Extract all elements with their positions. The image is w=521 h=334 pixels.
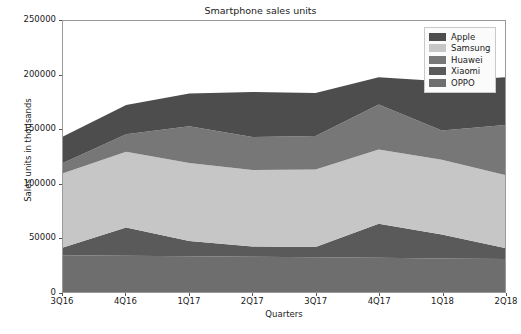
legend: AppleSamsungHuaweiXiaomiOPPO xyxy=(424,27,496,93)
y-tick-label: 50000 xyxy=(0,232,56,242)
area-series-oppo xyxy=(63,255,505,292)
x-tick-mark xyxy=(506,293,507,296)
x-tick-label: 2Q18 xyxy=(483,296,521,306)
legend-swatch-icon xyxy=(429,67,446,75)
legend-item-huawei[interactable]: Huawei xyxy=(429,54,490,66)
x-tick-label: 1Q18 xyxy=(420,296,466,306)
x-tick-mark xyxy=(443,293,444,296)
legend-label: Xiaomi xyxy=(451,66,480,76)
legend-label: Apple xyxy=(451,32,475,42)
x-tick-label: 1Q17 xyxy=(166,296,212,306)
x-tick-label: 3Q16 xyxy=(39,296,85,306)
legend-swatch-icon xyxy=(429,33,446,41)
legend-label: Huawei xyxy=(451,55,483,65)
legend-item-oppo[interactable]: OPPO xyxy=(429,77,490,89)
legend-item-samsung[interactable]: Samsung xyxy=(429,43,490,55)
x-tick-mark xyxy=(379,293,380,296)
legend-swatch-icon xyxy=(429,44,446,52)
x-tick-label: 4Q16 xyxy=(102,296,148,306)
x-tick-label: 2Q17 xyxy=(229,296,275,306)
legend-label: Samsung xyxy=(451,43,490,53)
x-tick-mark xyxy=(62,293,63,296)
legend-swatch-icon xyxy=(429,56,446,64)
figure-container: Smartphone sales units Sales units in th… xyxy=(0,0,521,334)
x-tick-label: 4Q17 xyxy=(356,296,402,306)
x-tick-mark xyxy=(252,293,253,296)
chart-title: Smartphone sales units xyxy=(0,5,521,16)
legend-label: OPPO xyxy=(451,78,475,88)
x-tick-label: 3Q17 xyxy=(293,296,339,306)
legend-item-xiaomi[interactable]: Xiaomi xyxy=(429,66,490,78)
x-axis-label: Quarters xyxy=(62,309,506,319)
legend-swatch-icon xyxy=(429,79,446,87)
y-tick-label: 200000 xyxy=(0,69,56,79)
x-tick-mark xyxy=(189,293,190,296)
y-tick-label: 250000 xyxy=(0,14,56,24)
x-tick-mark xyxy=(316,293,317,296)
x-tick-mark xyxy=(125,293,126,296)
y-axis-label-holder: Sales units in thousands xyxy=(6,20,22,293)
y-tick-label: 150000 xyxy=(0,123,56,133)
y-tick-label: 100000 xyxy=(0,178,56,188)
legend-item-apple[interactable]: Apple xyxy=(429,31,490,43)
figure-caption xyxy=(30,324,490,334)
